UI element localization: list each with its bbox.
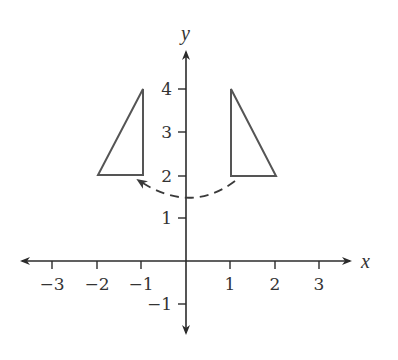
y-tick-label: 3 [161,122,172,142]
x-tick-label: 3 [314,274,325,294]
y-tick-label: 4 [161,79,172,99]
y-ticks [178,89,186,304]
x-axis-label: x [360,250,370,272]
y-tick-label: 1 [161,208,172,228]
y-tick-label: −1 [147,294,172,314]
x-tick-label: −1 [128,274,153,294]
image-triangle [98,89,143,175]
coordinate-plane: −3 −2 −1 1 2 3 4 3 2 1 −1 x y [0,0,398,360]
y-tick-label: 2 [161,166,172,186]
x-tick-label: −3 [39,274,64,294]
x-tick-label: 2 [270,274,281,294]
y-axis-label: y [179,22,190,45]
x-tick-label: −2 [84,274,109,294]
original-triangle [231,89,276,176]
x-tick-label: 1 [225,274,236,294]
x-tick-labels: −3 −2 −1 1 2 3 [39,274,324,294]
